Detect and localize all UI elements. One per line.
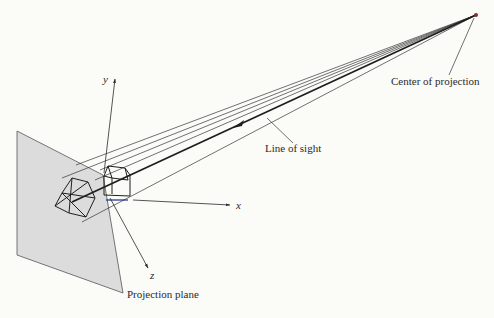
projection-plane bbox=[17, 131, 123, 293]
center-of-projection-label: Center of projection bbox=[391, 75, 480, 87]
line-of-sight-label: Line of sight bbox=[265, 142, 321, 154]
center-of-projection-point bbox=[474, 13, 478, 17]
line-of-sight bbox=[72, 15, 476, 202]
axis-y bbox=[104, 79, 115, 173]
axis-y-label: y bbox=[102, 73, 108, 85]
line-of-sight-leader bbox=[267, 118, 293, 143]
projection-plane-label: Projection plane bbox=[127, 288, 199, 300]
axis-x-label: x bbox=[235, 199, 241, 211]
perspective-projection-diagram: y x z Center of projection Line of sight… bbox=[0, 0, 494, 318]
axis-x bbox=[133, 200, 230, 205]
axis-z-label: z bbox=[149, 269, 155, 281]
projector-lines bbox=[62, 15, 476, 222]
